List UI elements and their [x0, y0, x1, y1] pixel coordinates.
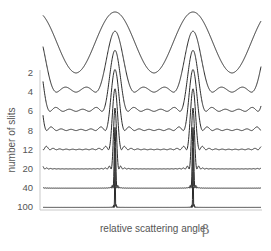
series-line-100	[43, 148, 261, 208]
series-line-8	[43, 70, 261, 131]
series-line-6	[43, 50, 261, 111]
series-label: 100	[17, 201, 33, 212]
tick-labels-group: 2468122040100	[17, 67, 33, 212]
series-label: 8	[28, 125, 33, 136]
x-axis-label: relative scattering angle	[100, 223, 206, 234]
y-axis-label: number of slits	[6, 107, 17, 172]
series-line-12	[43, 89, 261, 150]
series-label: 2	[28, 67, 33, 78]
multi-slit-interference-chart: 2468122040100 number of slits relative s…	[0, 0, 271, 251]
series-label: 6	[28, 105, 33, 116]
series-label: 12	[22, 144, 33, 155]
series-line-4	[43, 31, 261, 92]
x-axis-symbol: β	[202, 222, 210, 237]
series-line-20	[43, 108, 261, 169]
series-label: 20	[22, 163, 33, 174]
series-label: 4	[28, 86, 33, 97]
series-line-2	[43, 12, 261, 73]
series-line-40	[43, 127, 261, 188]
series-label: 40	[22, 182, 33, 193]
curves-group	[43, 12, 261, 207]
